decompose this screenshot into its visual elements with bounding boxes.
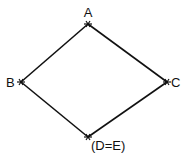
edge-c-d [88, 82, 167, 137]
edge-b-d [21, 82, 88, 137]
node-c-label: C [171, 75, 180, 90]
edge-a-b [21, 24, 88, 82]
diamond-diagram: A B C (D=E) [0, 0, 188, 161]
node-a-label: A [84, 5, 93, 20]
edge-a-c [88, 24, 167, 82]
node-b-label: B [6, 75, 15, 90]
node-d-label: (D=E) [91, 138, 125, 153]
